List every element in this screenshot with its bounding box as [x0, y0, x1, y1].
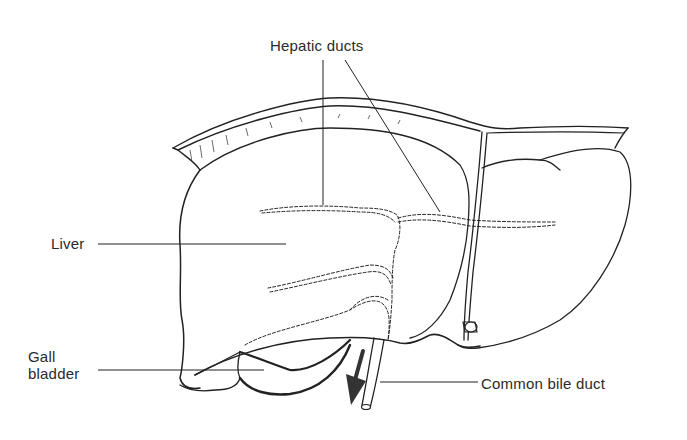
diaphragm-band [173, 98, 628, 170]
label-gall-bladder-line2: bladder [28, 365, 79, 382]
common-bile-duct-tube [362, 338, 385, 410]
hepatic-ducts-dashed [245, 206, 555, 345]
label-hepatic-ducts: Hepatic ducts [270, 37, 363, 54]
label-liver: Liver [51, 235, 85, 252]
diagram-drawing [0, 0, 687, 440]
leader-hepatic-right [345, 60, 440, 212]
label-gall-bladder: Gall bladder [28, 348, 79, 382]
label-common-bile-duct: Common bile duct [481, 375, 605, 392]
liver-outline [180, 128, 631, 389]
liver-biliary-diagram: Hepatic ducts Liver Gall bladder Common … [0, 0, 687, 440]
hatching [190, 114, 400, 162]
label-gall-bladder-line1: Gall [28, 348, 79, 365]
